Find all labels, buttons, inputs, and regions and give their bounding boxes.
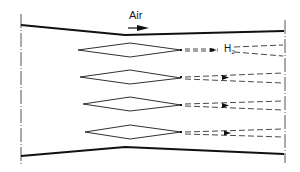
h2-subscript: 2 (231, 49, 234, 55)
diagram-canvas (0, 0, 300, 172)
air-label: Air (129, 10, 142, 21)
injector-strut-1 (78, 43, 182, 57)
hydrogen-label: H2 (224, 44, 235, 55)
top-wall (21, 25, 284, 35)
hydrogen-jet-4 (185, 129, 283, 137)
hydrogen-jet-3 (185, 101, 283, 110)
bottom-wall (21, 147, 284, 156)
air-flow-arrow-icon (128, 25, 149, 31)
injector-strut-2 (80, 70, 182, 84)
hydrogen-jet-2 (185, 73, 283, 83)
injector-strut-4 (85, 125, 182, 139)
injector-strut-3 (83, 97, 182, 111)
